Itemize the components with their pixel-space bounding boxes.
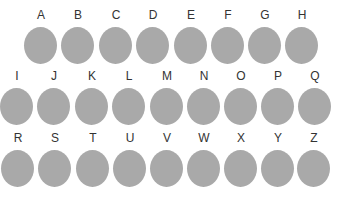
letter-circle[interactable] (211, 27, 244, 64)
letter-circle[interactable] (150, 150, 183, 187)
letter-label: L (112, 69, 146, 83)
letter-label: V (150, 131, 184, 145)
letter-circle[interactable] (248, 27, 281, 64)
letter-circle[interactable] (224, 88, 257, 125)
letter-label: U (113, 131, 147, 145)
letter-label: R (1, 131, 35, 145)
letter-circle[interactable] (38, 150, 71, 187)
letter-circle[interactable] (24, 27, 57, 64)
letter-circle[interactable] (113, 150, 146, 187)
letter-circle[interactable] (0, 88, 33, 125)
letter-circle[interactable] (297, 150, 330, 187)
letter-label: F (211, 8, 245, 22)
letter-label: M (150, 69, 184, 83)
letter-label: K (75, 69, 109, 83)
letter-circle[interactable] (112, 88, 145, 125)
letter-label: H (285, 8, 319, 22)
letter-circle[interactable] (76, 150, 109, 187)
letter-label: X (224, 131, 258, 145)
letter-label: G (248, 8, 282, 22)
letter-label: B (61, 8, 95, 22)
letter-circle[interactable] (224, 150, 257, 187)
letter-label: E (174, 8, 208, 22)
letter-circle[interactable] (1, 150, 34, 187)
letter-label: D (136, 8, 170, 22)
letter-circle[interactable] (37, 88, 70, 125)
letter-circle[interactable] (174, 27, 207, 64)
letter-label: T (76, 131, 110, 145)
letter-label: W (187, 131, 221, 145)
letter-circle[interactable] (261, 150, 294, 187)
letter-label: S (38, 131, 72, 145)
letter-label: N (187, 69, 221, 83)
letter-circle[interactable] (75, 88, 108, 125)
letter-label: Q (298, 69, 332, 83)
letter-circle[interactable] (61, 27, 94, 64)
letter-label: A (24, 8, 58, 22)
letter-label: Z (297, 131, 331, 145)
letter-circle[interactable] (99, 27, 132, 64)
letter-label: C (99, 8, 133, 22)
letter-label: P (261, 69, 295, 83)
letter-circle[interactable] (136, 27, 169, 64)
letter-circle[interactable] (150, 88, 183, 125)
letter-label: I (0, 69, 34, 83)
letter-circle[interactable] (298, 88, 331, 125)
letter-label: O (224, 69, 258, 83)
letter-circle[interactable] (261, 88, 294, 125)
letter-circle[interactable] (187, 150, 220, 187)
letter-label: Y (261, 131, 295, 145)
letter-circle[interactable] (187, 88, 220, 125)
letter-circle[interactable] (285, 27, 318, 64)
letter-label: J (37, 69, 71, 83)
